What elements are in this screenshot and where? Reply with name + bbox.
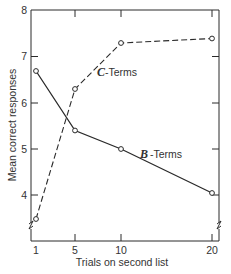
x-tick-label: 10	[115, 244, 127, 256]
y-axis-title: Mean correct responses	[6, 69, 18, 182]
x-axis-title: Trials on second list	[76, 256, 168, 268]
data-point	[34, 217, 39, 222]
series-label-b-terms: B-Terms	[139, 147, 182, 161]
data-point	[34, 69, 39, 74]
data-point	[119, 147, 124, 152]
y-tick-label: 5	[21, 143, 27, 155]
x-axis-ticks	[75, 10, 212, 241]
x-tick-label: 20	[206, 244, 218, 256]
y-tick-label: 6	[21, 97, 27, 109]
y-tick-label: 4	[21, 189, 27, 201]
y-tick-labels: 8 7 6 5 4	[21, 4, 27, 201]
data-point	[73, 128, 78, 133]
series-b-terms	[34, 69, 215, 196]
x-tick-label: 1	[33, 244, 39, 256]
x-tick-labels: 1 5 10 20	[33, 244, 218, 256]
x-tick-label: 5	[72, 244, 78, 256]
plot-frame	[29, 10, 221, 241]
y-tick-label: 7	[21, 50, 27, 62]
y-tick-label: 8	[21, 4, 27, 16]
data-point	[119, 41, 124, 46]
data-point	[210, 36, 215, 41]
data-point	[73, 87, 78, 92]
series-c-terms	[34, 36, 215, 221]
line-chart: 8 7 6 5 4 1 5 10 20 Trials on second lis…	[0, 0, 231, 274]
data-point	[210, 191, 215, 196]
series-label-c-terms: C-Terms	[97, 65, 137, 79]
